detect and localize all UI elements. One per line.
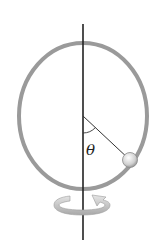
diagram: θ <box>0 0 158 252</box>
bead <box>123 153 138 168</box>
angle-arc <box>83 128 95 133</box>
angle-label: θ <box>86 141 95 159</box>
rotation-arrow-icon <box>54 195 110 215</box>
diagram-graphic <box>0 0 158 252</box>
